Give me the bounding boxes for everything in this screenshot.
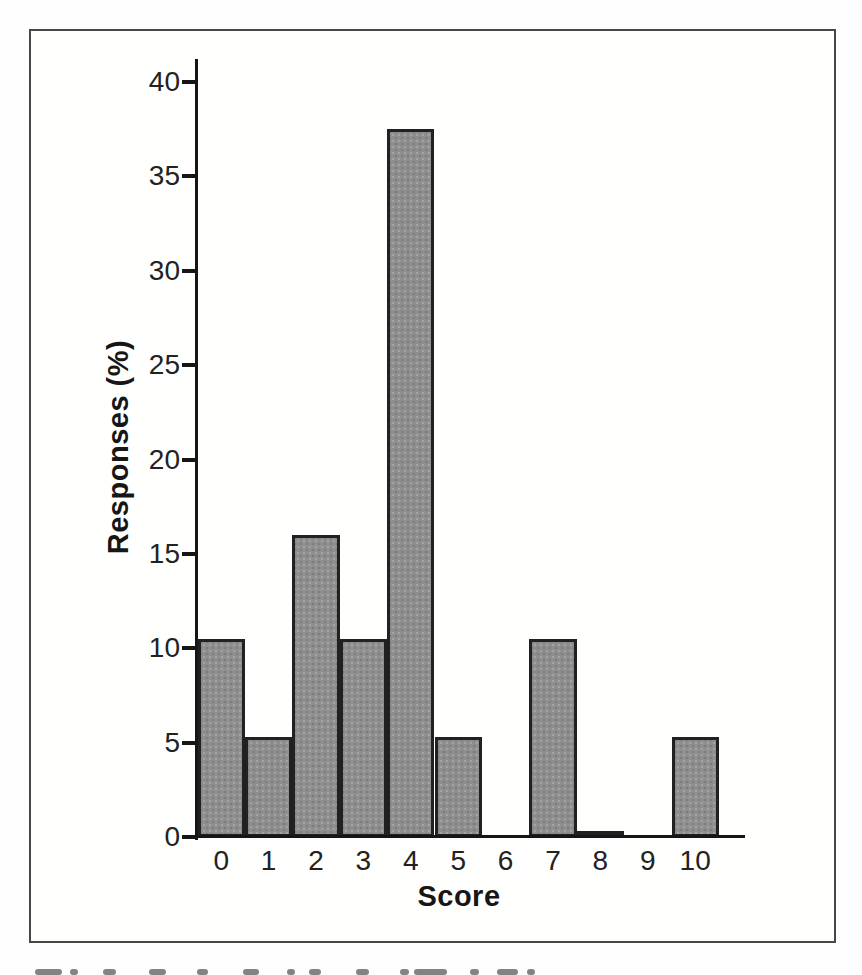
x-axis-line xyxy=(182,835,745,838)
bar-score-10 xyxy=(672,737,719,837)
x-tick-label-1: 1 xyxy=(245,846,292,876)
caption-text-sliver xyxy=(35,969,62,975)
bar-score-5 xyxy=(435,737,482,837)
x-axis-title: Score xyxy=(379,880,539,912)
y-tick-label: 30 xyxy=(122,256,180,286)
caption-text-sliver xyxy=(243,969,259,975)
caption-text-sliver xyxy=(356,969,369,975)
cropped-caption-fragment xyxy=(0,966,862,975)
bar-score-2 xyxy=(292,535,339,837)
y-tick-label: 5 xyxy=(122,728,180,758)
y-tick-label: 40 xyxy=(122,67,180,97)
scanned-figure-page: 0510152025303540 012345678910 Responses … xyxy=(0,0,862,975)
bar-score-3 xyxy=(340,639,387,837)
x-tick-label-0: 0 xyxy=(198,846,245,876)
x-tick-label-8: 8 xyxy=(577,846,624,876)
x-tick-label-7: 7 xyxy=(529,846,576,876)
y-axis-line xyxy=(195,59,198,840)
x-tick-label-3: 3 xyxy=(340,846,387,876)
y-tick-label: 35 xyxy=(122,161,180,191)
x-tick-label-10: 10 xyxy=(672,846,719,876)
caption-text-sliver xyxy=(527,969,535,975)
caption-text-sliver xyxy=(470,969,479,975)
x-tick-label-6: 6 xyxy=(482,846,529,876)
x-tick-label-4: 4 xyxy=(387,846,434,876)
caption-text-sliver xyxy=(70,969,78,975)
bar-score-0 xyxy=(198,639,245,837)
bar-score-4 xyxy=(387,129,434,837)
caption-text-sliver xyxy=(400,969,409,975)
x-tick-label-9: 9 xyxy=(624,846,671,876)
caption-text-sliver xyxy=(103,969,116,975)
x-tick-label-5: 5 xyxy=(435,846,482,876)
y-axis-title: Responses (%) xyxy=(102,297,134,597)
caption-text-sliver xyxy=(414,969,447,975)
caption-text-sliver xyxy=(309,969,321,975)
y-tick-label: 0 xyxy=(122,822,180,852)
bar-score-1 xyxy=(245,737,292,837)
x-tick-label-2: 2 xyxy=(292,846,339,876)
caption-text-sliver xyxy=(197,969,208,975)
caption-text-sliver xyxy=(287,969,295,975)
bar-score-7 xyxy=(529,639,576,837)
caption-text-sliver xyxy=(149,969,166,975)
y-tick-label: 10 xyxy=(122,633,180,663)
caption-text-sliver xyxy=(497,969,518,975)
